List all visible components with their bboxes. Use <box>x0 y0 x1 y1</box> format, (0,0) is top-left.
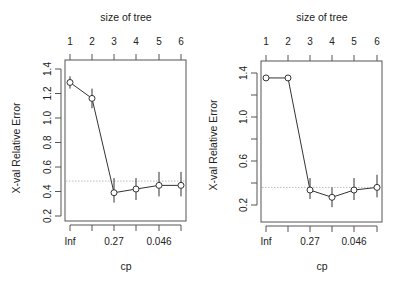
y-tick-label: 1.0 <box>238 110 249 124</box>
plot-frame <box>65 60 186 221</box>
data-point-marker <box>67 79 73 85</box>
top-tick-label: 3 <box>307 36 313 47</box>
bottom-tick-label: 0.27 <box>104 236 124 247</box>
x-axis-title: cp <box>120 260 131 272</box>
data-point-marker <box>111 190 117 196</box>
top-tick-label: 2 <box>89 36 95 47</box>
cp-plot-right: 123456size of treeInf0.270.046cp0.20.61.… <box>207 11 382 272</box>
data-point-marker <box>329 194 335 200</box>
top-tick-label: 5 <box>156 36 162 47</box>
y-tick-label: 0.6 <box>42 160 53 174</box>
cp-plot-figure: 123456size of treeInf0.270.046cp0.20.40.… <box>0 0 399 283</box>
top-axis-title: size of tree <box>296 11 348 23</box>
bottom-tick-label: 0.046 <box>146 236 171 247</box>
data-point-marker <box>89 95 95 101</box>
y-tick-label: 0.6 <box>238 154 249 168</box>
y-tick-label: 1.4 <box>42 62 53 76</box>
data-point-marker <box>156 182 162 188</box>
data-point-marker <box>307 187 313 193</box>
top-axis-title: size of tree <box>100 11 152 23</box>
plot-frame <box>261 61 382 222</box>
y-tick-label: 1.4 <box>238 66 249 80</box>
data-point-marker <box>133 186 139 192</box>
data-point-marker <box>374 184 380 190</box>
y-axis-title: X-val Relative Error <box>10 102 22 194</box>
y-tick-label: 1.2 <box>42 86 53 100</box>
data-point-marker <box>178 182 184 188</box>
y-tick-label: 0.8 <box>42 135 53 149</box>
top-tick-label: 4 <box>133 36 139 47</box>
data-point-marker <box>351 187 357 193</box>
top-tick-label: 1 <box>263 36 269 47</box>
top-tick-label: 4 <box>329 36 335 47</box>
y-tick-label: 0.2 <box>42 209 53 223</box>
bottom-tick-label: 0.046 <box>341 236 366 247</box>
top-tick-label: 3 <box>111 36 117 47</box>
top-tick-label: 5 <box>351 36 357 47</box>
y-tick-label: 0.4 <box>42 184 53 198</box>
y-tick-label: 0.2 <box>238 198 249 212</box>
bottom-tick-label: Inf <box>260 236 271 247</box>
y-axis-title: X-val Relative Error <box>207 99 219 191</box>
top-tick-label: 6 <box>178 36 184 47</box>
top-tick-label: 1 <box>67 36 73 47</box>
bottom-tick-label: 0.27 <box>300 236 320 247</box>
cp-plot-left: 123456size of treeInf0.270.046cp0.20.40.… <box>10 11 186 272</box>
data-point-marker <box>263 75 269 81</box>
y-tick-label: 1.0 <box>42 111 53 125</box>
bottom-tick-label: Inf <box>64 236 75 247</box>
top-tick-label: 6 <box>374 36 380 47</box>
data-point-marker <box>285 75 291 81</box>
xerror-line <box>266 78 377 197</box>
x-axis-title: cp <box>316 260 327 272</box>
xerror-line <box>70 82 181 192</box>
top-tick-label: 2 <box>285 36 291 47</box>
